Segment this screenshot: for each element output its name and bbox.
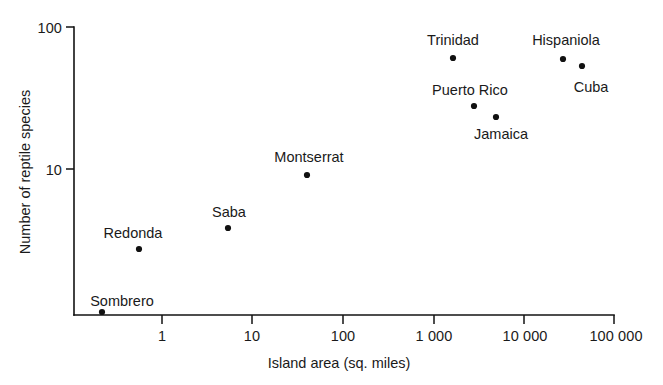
point-label-montserrat: Montserrat	[274, 150, 343, 165]
data-point-saba	[225, 225, 231, 231]
point-label-sombrero: Sombrero	[90, 294, 154, 309]
point-label-cuba: Cuba	[574, 80, 609, 95]
point-label-saba: Saba	[212, 205, 246, 220]
x-tick-label-100: 100	[331, 329, 356, 344]
point-label-trinidad: Trinidad	[427, 33, 479, 48]
data-point-cuba	[579, 63, 585, 69]
y-tick-label-100: 100	[38, 21, 63, 36]
x-tick-label-1: 1	[158, 329, 166, 344]
point-label-hispaniola: Hispaniola	[532, 33, 600, 48]
point-label-jamaica: Jamaica	[474, 127, 528, 142]
data-point-montserrat	[304, 172, 310, 178]
point-label-redonda: Redonda	[104, 226, 163, 241]
x-tick-label-10: 10	[244, 329, 260, 344]
data-point-sombrero	[99, 309, 105, 315]
y-axis-title: Number of reptile species	[18, 90, 33, 254]
data-point-hispaniola	[560, 56, 566, 62]
x-tick-label-100000: 100 000	[589, 329, 642, 344]
data-point-redonda	[136, 246, 142, 252]
y-tick-label-10: 10	[46, 163, 62, 178]
point-label-puerto-rico: Puerto Rico	[432, 83, 508, 98]
scatter-plot-figure: 100 10 1 10 100 1 000 10 000 100 000 Isl…	[0, 0, 663, 385]
x-tick-label-1000: 1 000	[416, 329, 453, 344]
x-axis-title: Island area (sq. miles)	[268, 356, 411, 371]
data-point-jamaica	[493, 114, 499, 120]
data-point-puerto-rico	[471, 103, 477, 109]
x-tick-label-10000: 10 000	[503, 329, 548, 344]
data-point-trinidad	[450, 55, 456, 61]
